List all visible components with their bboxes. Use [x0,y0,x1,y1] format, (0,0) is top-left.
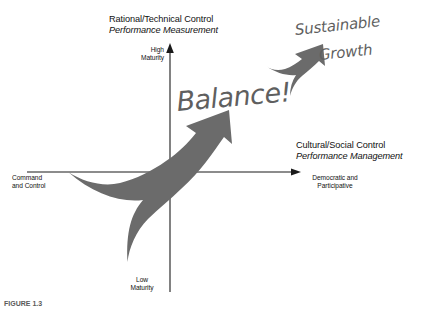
axis-endpoint-low-maturity: Low Maturity [120,276,164,292]
vertical-axis-title: Rational/Technical Control [109,14,213,25]
balance-arrow-icon [69,110,233,262]
horizontal-axis-title: Cultural/Social Control [296,140,385,151]
axis-endpoint-command-and-control: Command and Control [12,174,72,190]
vertical-axis-subtitle: Performance Measurement [109,25,218,36]
axis-endpoint-high-maturity: High Maturity [120,46,164,62]
figure-container: Rational/Technical Control Performance M… [0,0,430,309]
horizontal-axis-subtitle: Performance Management [296,151,403,162]
figure-caption: FIGURE 1.3 [4,300,42,307]
axis-endpoint-democratic-and-participative: Democratic and Participative [300,174,370,190]
